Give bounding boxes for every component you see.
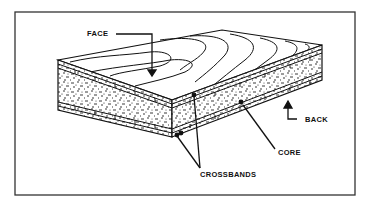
label-crossbands: CROSSBANDS xyxy=(200,171,256,179)
plywood-diagram xyxy=(0,0,380,207)
label-back: BACK xyxy=(305,116,328,124)
label-core: CORE xyxy=(278,149,301,157)
label-face: FACE xyxy=(87,30,108,38)
